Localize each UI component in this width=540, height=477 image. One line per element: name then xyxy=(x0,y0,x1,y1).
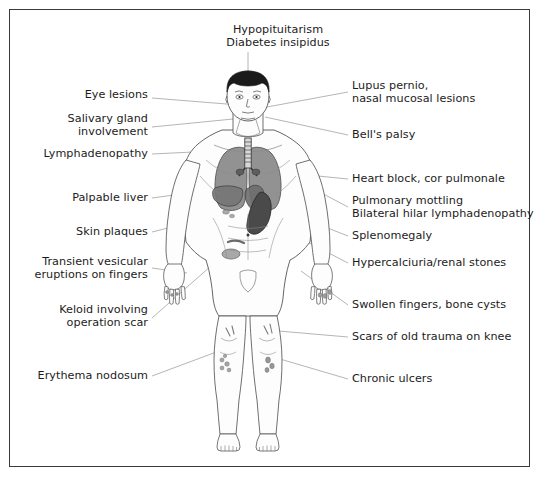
label-pulmonary-mottling-bilateral-hilar-lymphadenopathy: Pulmonary mottling Bilateral hilar lymph… xyxy=(352,194,538,221)
left-hand xyxy=(164,264,185,290)
label-erythema-nodosum: Erythema nodosum xyxy=(8,369,148,382)
right-hand xyxy=(312,264,333,290)
label-bells-palsy: Bell's palsy xyxy=(352,128,534,141)
label-salivary-gland-involvement: Salivary gland involvement xyxy=(8,112,148,139)
label-palpable-liver: Palpable liver xyxy=(8,191,148,204)
label-splenomegaly: Splenomegaly xyxy=(352,229,534,242)
leader-lupus-pernio xyxy=(267,92,348,107)
toes xyxy=(221,446,275,452)
label-skin-plaques: Skin plaques xyxy=(8,225,148,238)
leader-erythema-nodosum xyxy=(152,351,219,376)
label-lymphadenopathy: Lymphadenopathy xyxy=(8,147,148,160)
label-chronic-ulcers: Chronic ulcers xyxy=(352,372,534,385)
body-silhouette xyxy=(164,71,333,451)
label-keloid-involving-operation-scar: Keloid involving operation scar xyxy=(8,303,148,330)
diagram-root: Hypopituitarism Diabetes insipidus Eye l… xyxy=(0,0,540,477)
label-hypopituitarism-diabetes-insipidus: Hypopituitarism Diabetes insipidus xyxy=(178,23,378,50)
navel xyxy=(247,234,250,237)
human-figure xyxy=(164,71,333,451)
label-transient-vesicular-eruptions-on-fingers: Transient vesicular eruptions on fingers xyxy=(8,255,148,282)
label-heart-block-cor-pulmonale: Heart block, cor pulmonale xyxy=(352,172,534,185)
left-pupil xyxy=(238,96,240,98)
right-leg xyxy=(250,316,282,434)
leader-salivary-gland xyxy=(152,119,233,127)
leader-chronic-ulcers xyxy=(273,357,348,379)
label-scars-of-old-trauma-on-knee: Scars of old trauma on knee xyxy=(352,330,534,343)
label-eye-lesions: Eye lesions xyxy=(8,88,148,101)
kidney xyxy=(222,249,240,259)
label-lupus-pernio-nasal-mucosal-lesions: Lupus pernio, nasal mucosal lesions xyxy=(352,79,534,106)
right-pupil xyxy=(255,96,257,98)
label-swollen-fingers-bone-cysts: Swollen fingers, bone cysts xyxy=(352,298,534,311)
label-hypercalciuria-renal-stones: Hypercalciuria/renal stones xyxy=(352,256,534,269)
left-leg xyxy=(214,316,246,434)
